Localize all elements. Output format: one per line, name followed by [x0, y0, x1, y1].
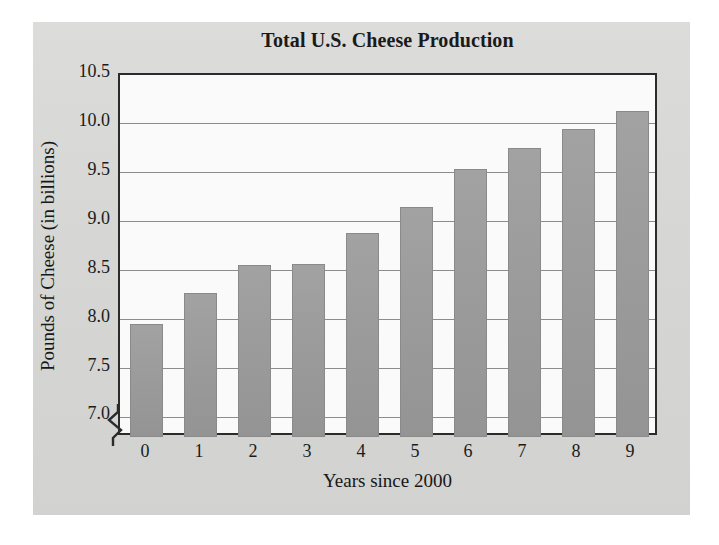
y-axis-title-wrap: Pounds of Cheese (in billions): [35, 66, 61, 446]
bar: [346, 233, 379, 437]
y-axis-tick-label: 9.5: [88, 159, 111, 180]
x-axis-tick-label: 5: [388, 441, 442, 462]
zigzag-break-icon: [104, 404, 126, 446]
x-axis-tick-label: 1: [172, 441, 226, 462]
bar: [508, 148, 541, 437]
plot-area: [118, 73, 657, 435]
x-axis-title: Years since 2000: [118, 470, 657, 492]
y-axis-title: Pounds of Cheese (in billions): [35, 66, 61, 446]
y-axis-tick-label: 8.0: [88, 306, 111, 327]
x-axis-tick-label: 0: [118, 441, 172, 462]
x-axis-tick-label: 4: [334, 441, 388, 462]
x-axis-tick-label: 2: [226, 441, 280, 462]
x-axis-tick-labels: 0123456789: [118, 441, 657, 471]
y-axis-tick-label: 10.0: [79, 110, 111, 131]
bar: [562, 129, 595, 437]
chart-title: Total U.S. Cheese Production: [118, 29, 657, 52]
y-axis-tick-label: 9.0: [88, 208, 111, 229]
bar: [238, 265, 271, 437]
x-axis-tick-label: 7: [495, 441, 549, 462]
plot-inner: [120, 75, 655, 433]
bar: [184, 293, 217, 437]
y-axis-tick-label: 10.5: [79, 61, 111, 82]
x-axis-tick-label: 8: [549, 441, 603, 462]
gridline: [120, 123, 655, 124]
x-axis-tick-label: 3: [280, 441, 334, 462]
bar: [400, 207, 433, 437]
bar: [130, 324, 163, 437]
y-axis-tick-label: 8.5: [88, 257, 111, 278]
x-axis-tick-label: 6: [441, 441, 495, 462]
bar: [616, 111, 649, 437]
y-axis-tick-label: 7.5: [88, 355, 111, 376]
chart-figure: Total U.S. Cheese Production 10.510.09.5…: [0, 0, 719, 545]
x-axis-tick-label: 9: [603, 441, 657, 462]
bar: [454, 169, 487, 437]
bar: [292, 264, 325, 437]
